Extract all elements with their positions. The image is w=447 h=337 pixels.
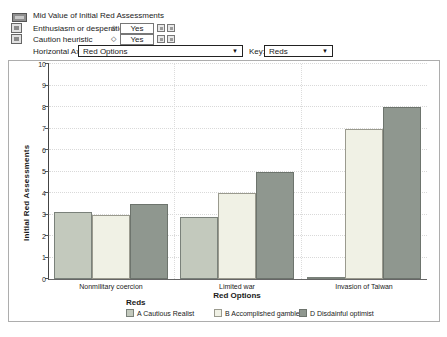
y-tick-label: 7	[32, 125, 46, 132]
result-window: Mid Value of Initial Red Assessments Ent…	[0, 0, 447, 337]
horizontal-axis-value: Red Options	[83, 47, 127, 56]
chevron-down-icon: ▼	[232, 48, 238, 54]
key-label: Key:	[249, 47, 265, 57]
legend-entry: D Disdainful optimist	[299, 309, 374, 317]
legend-title: Reds	[126, 298, 146, 307]
y-tick-label: 9	[32, 82, 46, 89]
y-tick-label: 6	[32, 147, 46, 154]
key-dropdown[interactable]: Reds ▼	[264, 45, 333, 57]
legend-label: D Disdainful optimist	[310, 310, 374, 317]
y-gridline	[49, 85, 427, 86]
result-title: Mid Value of Initial Red Assessments	[33, 11, 164, 21]
legend-entry: A Cautious Realist	[126, 309, 194, 317]
caution-edit-button[interactable]	[157, 35, 165, 43]
y-tick-label: 2	[32, 233, 46, 240]
bar-1-1	[54, 212, 92, 279]
category-label: Invasion of Taiwan	[304, 283, 424, 290]
decision-node-icon	[11, 23, 22, 33]
y-tick-label: 4	[32, 190, 46, 197]
input-label-enthusiasm: Enthusiasm or desperation?	[33, 24, 133, 34]
y-tick-label: 3	[32, 211, 46, 218]
chart-panel: Initial Red Assessments 012345678910Nonm…	[8, 60, 440, 322]
edit-glyph	[160, 38, 163, 41]
mid-view-button[interactable]	[12, 13, 27, 22]
diamond-icon: ◇	[111, 24, 116, 32]
decision-node-glyph	[14, 26, 19, 30]
legend-entry: B Accomplished gambler	[214, 309, 302, 317]
category-label: Limited war	[177, 283, 297, 290]
caution-value-field[interactable]: Yes	[120, 34, 154, 45]
mid-view-icon	[15, 16, 24, 19]
category-label: Nonmilitary coercion	[51, 283, 171, 290]
object-glyph	[170, 27, 173, 30]
object-glyph	[170, 38, 173, 41]
caution-object-button[interactable]	[167, 35, 175, 43]
chart-node-icon	[11, 34, 22, 44]
y-gridline	[49, 106, 427, 107]
diamond-icon: ◇	[111, 35, 116, 43]
bar-3-3	[383, 107, 421, 279]
x-axis-title: Red Options	[48, 291, 426, 300]
y-gridline	[49, 63, 427, 64]
y-tick-label: 8	[32, 104, 46, 111]
legend-label: A Cautious Realist	[137, 310, 194, 317]
legend-swatch-icon	[299, 309, 307, 317]
plot-area: 012345678910Nonmilitary coercionLimited …	[48, 64, 427, 280]
enthusiasm-object-button[interactable]	[167, 24, 175, 32]
horizontal-axis-dropdown[interactable]: Red Options ▼	[78, 45, 243, 57]
chart-node-glyph	[14, 37, 19, 41]
group-separator-gridline	[174, 64, 175, 279]
group-separator-gridline	[301, 64, 302, 279]
bar-1-3	[130, 204, 168, 279]
legend-label: B Accomplished gambler	[225, 310, 302, 317]
bar-3-1	[307, 277, 345, 279]
chevron-down-icon: ▼	[322, 48, 328, 54]
legend-swatch-icon	[214, 309, 222, 317]
bar-2-3	[256, 172, 294, 280]
y-tick-label: 10	[32, 61, 46, 68]
legend-swatch-icon	[126, 309, 134, 317]
input-label-caution: Caution heuristic	[33, 35, 93, 45]
bar-1-2	[92, 215, 130, 280]
enthusiasm-value-field[interactable]: Yes	[120, 23, 154, 34]
bar-3-2	[345, 129, 383, 280]
edit-glyph	[160, 27, 163, 30]
key-value: Reds	[269, 47, 288, 56]
y-tick-label: 0	[32, 276, 46, 283]
y-axis-title: Initial Red Assessments	[22, 111, 31, 241]
y-tick-label: 5	[32, 168, 46, 175]
bar-2-2	[218, 193, 256, 279]
enthusiasm-edit-button[interactable]	[157, 24, 165, 32]
bar-2-1	[180, 217, 218, 279]
y-tick-label: 1	[32, 254, 46, 261]
